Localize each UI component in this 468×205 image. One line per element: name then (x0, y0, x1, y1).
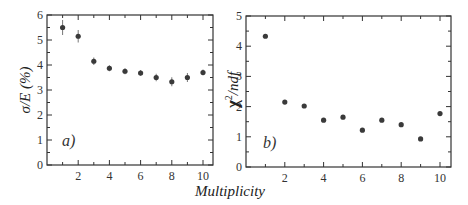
data-point (185, 75, 190, 80)
y-axis-title-b: χ2/ndf (223, 70, 242, 109)
data-point (340, 115, 345, 120)
plot-frame (246, 16, 451, 167)
x-tick-label: 2 (282, 171, 288, 185)
data-point (360, 128, 365, 133)
data-point (379, 118, 384, 123)
y-tick-label: 4 (37, 58, 43, 72)
y-tick-label: 0 (236, 160, 242, 174)
data-point (263, 34, 268, 39)
x-tick-label: 8 (169, 169, 175, 183)
data-point (169, 79, 174, 84)
y-axis-title-b-rest: /ndf (225, 70, 241, 96)
y-axis-title-a: σ/E (%) (17, 67, 34, 114)
data-point (91, 59, 96, 64)
data-point (200, 70, 205, 75)
y-tick-label: 1 (236, 130, 242, 144)
x-tick-label: 6 (359, 171, 365, 185)
x-tick-label: 6 (138, 169, 144, 183)
y-tick-label: 4 (236, 39, 242, 53)
data-point (76, 34, 81, 39)
y-tick-label: 0 (37, 158, 43, 172)
y-tick-label: 3 (37, 83, 43, 97)
y-tick-label: 2 (37, 108, 43, 122)
y-tick-label: 5 (37, 33, 43, 47)
x-tick-label: 10 (434, 171, 446, 185)
y-axis-title-b-chi: χ (223, 100, 242, 109)
x-tick-label: 10 (197, 169, 209, 183)
data-point (418, 136, 423, 141)
data-point (138, 70, 143, 75)
data-point (60, 25, 65, 30)
panel-label-b: b) (263, 134, 276, 152)
y-tick-label: 5 (236, 9, 242, 23)
data-point (437, 111, 442, 116)
x-tick-label: 8 (398, 171, 404, 185)
panel-label-a: a) (62, 132, 75, 150)
data-point (302, 103, 307, 108)
data-point (282, 99, 287, 104)
data-point (321, 118, 326, 123)
data-point (154, 75, 159, 80)
data-point (122, 69, 127, 74)
y-tick-label: 6 (37, 8, 43, 22)
y-tick-label: 1 (37, 133, 43, 147)
chart-panel-b: 012345246810 (236, 9, 451, 185)
x-tick-label: 4 (321, 171, 327, 185)
chart-panel-a: 0123456246810 (37, 8, 213, 183)
x-tick-label: 2 (75, 169, 81, 183)
data-point (399, 122, 404, 127)
data-point (107, 66, 112, 71)
figure: 0123456246810 012345246810 σ/E (%) χ2/nd… (0, 0, 468, 205)
x-axis-title: Multiplicity (194, 183, 265, 199)
x-tick-label: 4 (106, 169, 112, 183)
